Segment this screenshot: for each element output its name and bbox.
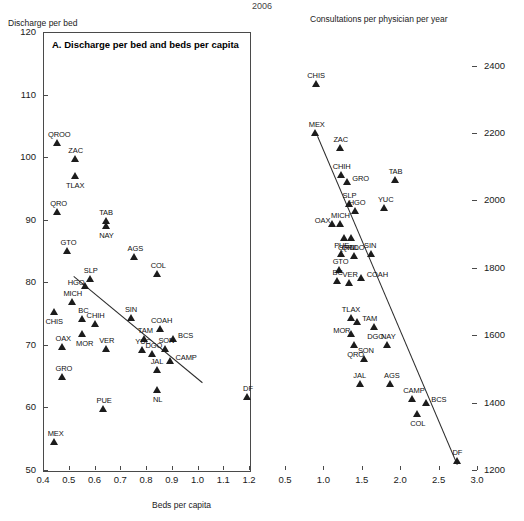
data-point-label: GRO	[55, 364, 72, 373]
data-point-marker[interactable]	[408, 395, 416, 402]
data-point-marker[interactable]	[453, 457, 461, 464]
data-point-marker[interactable]	[336, 144, 344, 151]
x-axis-tick-label: 1.2	[234, 474, 264, 485]
data-point-marker[interactable]	[312, 80, 320, 87]
data-point-marker[interactable]	[333, 277, 341, 284]
x-axis-tick-mark	[43, 466, 44, 470]
data-point-marker[interactable]	[156, 325, 164, 332]
data-point-marker[interactable]	[336, 220, 344, 227]
data-point-marker[interactable]	[102, 222, 110, 229]
data-point-label: YUC	[378, 195, 394, 204]
data-point-marker[interactable]	[413, 410, 421, 417]
data-point-label: VER	[343, 270, 358, 279]
data-point-label: SIN	[125, 305, 137, 314]
data-point-marker[interactable]	[350, 252, 358, 259]
data-point-marker[interactable]	[99, 405, 107, 412]
data-point-label: ZAC	[68, 146, 83, 155]
data-point-label: MICH	[331, 211, 350, 220]
data-point-marker[interactable]	[353, 318, 361, 325]
y-axis-tick-mark	[43, 157, 48, 158]
data-point-marker[interactable]	[78, 315, 86, 322]
data-point-label: GTO	[61, 238, 77, 247]
data-point-marker[interactable]	[68, 298, 76, 305]
data-point-marker[interactable]	[153, 270, 161, 277]
y-axis-tick-label: 2200	[484, 127, 518, 138]
chart-panel-b: B. Consultations and physicians 12001400…	[262, 0, 524, 521]
data-point-marker[interactable]	[356, 380, 364, 387]
data-point-label: TAB	[389, 167, 403, 176]
data-point-marker[interactable]	[351, 207, 359, 214]
y-axis-tick-mark	[43, 282, 48, 283]
data-point-marker[interactable]	[58, 373, 66, 380]
data-point-label: QROO	[48, 130, 71, 139]
data-point-label: NL	[350, 243, 359, 252]
data-point-marker[interactable]	[53, 208, 61, 215]
data-point-marker[interactable]	[166, 357, 174, 364]
x-axis-tick-mark	[69, 466, 70, 470]
x-axis-tick-label: 1.0	[308, 474, 338, 485]
panel-a-title: A. Discharge per bed and beds per capita	[52, 39, 239, 50]
data-point-marker[interactable]	[71, 155, 79, 162]
data-point-label: MOR	[333, 326, 350, 335]
data-point-marker[interactable]	[58, 343, 66, 350]
data-point-marker[interactable]	[102, 345, 110, 352]
data-point-marker[interactable]	[391, 176, 399, 183]
y-axis-tick-mark	[472, 268, 477, 269]
data-point-marker[interactable]	[350, 341, 358, 348]
data-point-label: MICH	[63, 289, 82, 298]
y-axis-tick-label: 110	[6, 89, 36, 100]
data-point-label: TAB	[99, 208, 113, 217]
data-point-marker[interactable]	[386, 380, 394, 387]
data-point-marker[interactable]	[383, 341, 391, 348]
data-point-marker[interactable]	[311, 129, 319, 136]
data-point-marker[interactable]	[130, 253, 138, 260]
data-point-label: NL	[153, 395, 162, 404]
data-point-label: OAX	[315, 216, 331, 225]
y-axis-tick-mark	[43, 32, 48, 33]
data-point-label: TLAX	[66, 181, 84, 190]
data-point-label: COAH	[151, 316, 172, 325]
y-axis-tick-mark	[472, 403, 477, 404]
x-axis-tick-mark	[172, 466, 173, 470]
data-point-marker[interactable]	[243, 393, 251, 400]
data-point-marker[interactable]	[370, 323, 378, 330]
data-point-marker[interactable]	[357, 274, 365, 281]
data-point-marker[interactable]	[343, 178, 351, 185]
data-point-label: CHIH	[333, 162, 351, 171]
data-point-label: MOR	[76, 339, 93, 348]
data-point-label: SIN	[364, 241, 376, 250]
data-point-label: MEX	[48, 429, 64, 438]
data-point-label: BCS	[178, 331, 193, 340]
x-axis-tick-mark	[146, 466, 147, 470]
y-axis-tick-label: 100	[6, 151, 36, 162]
data-point-label: CHIS	[45, 317, 63, 326]
data-point-marker[interactable]	[78, 330, 86, 337]
data-point-marker[interactable]	[367, 250, 375, 257]
data-point-marker[interactable]	[380, 204, 388, 211]
data-point-marker[interactable]	[138, 346, 146, 353]
data-point-marker[interactable]	[360, 355, 368, 362]
y-axis-tick-label: 80	[6, 276, 36, 287]
data-point-marker[interactable]	[91, 320, 99, 327]
data-point-marker[interactable]	[50, 438, 58, 445]
data-point-marker[interactable]	[53, 139, 61, 146]
data-point-marker[interactable]	[63, 247, 71, 254]
data-point-marker[interactable]	[127, 314, 135, 321]
x-axis-tick-mark	[323, 466, 324, 470]
data-point-marker[interactable]	[153, 366, 161, 373]
chart-panel-a: A. Discharge per bed and beds per capita…	[0, 0, 262, 521]
x-axis-tick-mark	[400, 466, 401, 470]
data-point-label: CAMP	[175, 353, 196, 362]
data-point-label: DF	[452, 448, 462, 457]
y-axis-tick-mark	[472, 133, 477, 134]
data-point-marker[interactable]	[153, 386, 161, 393]
data-point-marker[interactable]	[148, 350, 156, 357]
data-point-marker[interactable]	[50, 308, 58, 315]
data-point-marker[interactable]	[345, 279, 353, 286]
data-point-marker[interactable]	[71, 172, 79, 179]
data-point-label: DF	[243, 384, 253, 393]
data-point-marker[interactable]	[347, 234, 355, 241]
x-axis-tick-label: 0.5	[270, 474, 300, 485]
data-point-label: BC	[333, 268, 343, 277]
data-point-marker[interactable]	[422, 399, 430, 406]
